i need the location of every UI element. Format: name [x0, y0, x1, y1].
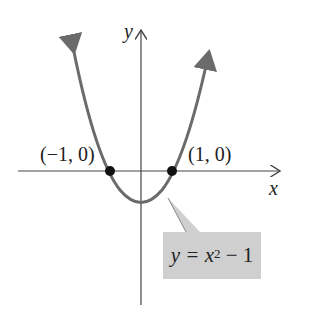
- point-label-neg1-0: (−1, 0): [40, 143, 95, 166]
- equation-rhs: − 1: [220, 243, 253, 268]
- y-axis-label: y: [124, 20, 133, 43]
- equation-callout: y = x2 − 1: [163, 232, 261, 279]
- equation-lhs: y = x: [171, 243, 214, 268]
- equation-exponent: 2: [214, 246, 221, 262]
- point-label-1-0: (1, 0): [188, 143, 231, 166]
- x-axis-label: x: [269, 177, 278, 200]
- callout-pointer: [168, 198, 200, 232]
- point-neg1-0: [105, 166, 115, 176]
- point-1-0: [167, 166, 177, 176]
